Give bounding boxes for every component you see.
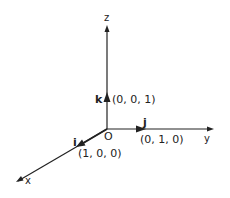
origin-label: O	[104, 131, 113, 142]
z-axis-arrowhead-icon	[105, 25, 110, 32]
z-axis-label: z	[104, 13, 109, 23]
y-axis-arrowhead-icon	[207, 127, 214, 132]
x-axis-arrowhead-icon	[16, 176, 24, 182]
k-vector-arrowhead-icon	[104, 92, 111, 102]
k-vector-coords: (0, 0, 1)	[112, 94, 156, 105]
y-axis-label: y	[204, 134, 210, 144]
i-vector-label: i	[73, 137, 77, 148]
i-vector-arrowhead-icon	[76, 140, 86, 148]
j-vector-coords: (0, 1, 0)	[140, 134, 184, 145]
j-vector-label: j	[143, 117, 147, 128]
x-axis-label: x	[25, 176, 31, 186]
i-vector-line	[80, 129, 107, 145]
k-vector-label: k	[95, 94, 102, 105]
i-vector-coords: (1, 0, 0)	[78, 148, 122, 159]
